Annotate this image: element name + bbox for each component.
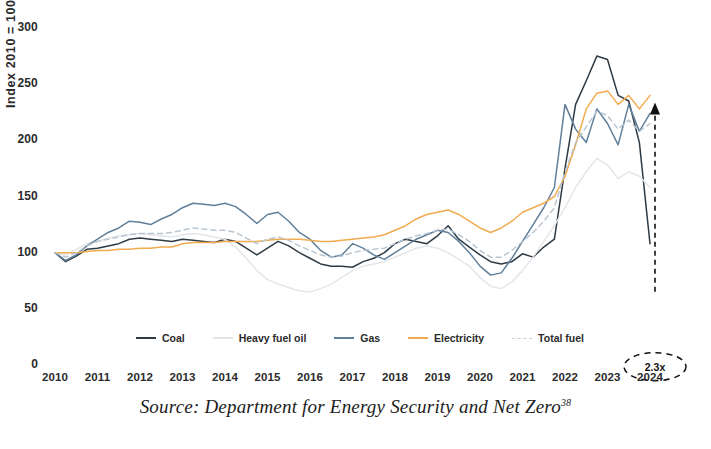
y-tick-300: 300 [4, 20, 38, 34]
legend-label: Gas [360, 332, 380, 344]
legend-item-gas[interactable]: Gas [334, 332, 380, 344]
legend-item-coal[interactable]: Coal [136, 332, 185, 344]
x-tick-2011: 2011 [76, 371, 120, 383]
source-caption: Source: Department for Energy Security a… [0, 396, 711, 418]
series-line-coal [55, 56, 650, 267]
y-tick-50: 50 [4, 301, 38, 315]
legend-item-electricity[interactable]: Electricity [408, 332, 484, 344]
series-line-electricity [55, 91, 650, 253]
x-tick-2012: 2012 [118, 371, 162, 383]
x-tick-2018: 2018 [373, 371, 417, 383]
x-tick-2014: 2014 [203, 371, 247, 383]
legend-label: Total fuel [538, 332, 584, 344]
legend-swatch-coal-icon [136, 337, 156, 339]
annotation-layer: 2.3x [624, 102, 686, 380]
x-tick-2024: 2024 [628, 371, 672, 383]
series-layer [55, 56, 650, 292]
y-tick-250: 250 [4, 76, 38, 90]
x-tick-2010: 2010 [33, 371, 77, 383]
y-axis-title: Index 2010 = 100 [4, 0, 18, 108]
legend-swatch-gas-icon [334, 337, 354, 339]
y-tick-150: 150 [4, 189, 38, 203]
x-tick-2016: 2016 [288, 371, 332, 383]
x-tick-2019: 2019 [416, 371, 460, 383]
x-tick-2015: 2015 [246, 371, 290, 383]
series-line-gas [55, 104, 650, 275]
legend-label: Heavy fuel oil [239, 332, 307, 344]
x-tick-2013: 2013 [161, 371, 205, 383]
chart-legend: CoalHeavy fuel oilGasElectricityTotal fu… [136, 329, 584, 347]
legend-swatch-heavy-fuel-oil-icon [213, 337, 233, 339]
legend-swatch-electricity-icon [408, 337, 428, 339]
y-tick-100: 100 [4, 245, 38, 259]
x-tick-2023: 2023 [586, 371, 630, 383]
y-tick-0: 0 [4, 357, 38, 371]
x-tick-2020: 2020 [458, 371, 502, 383]
legend-label: Coal [162, 332, 185, 344]
annotation-arrowhead-icon [650, 102, 660, 114]
source-text: Source: Department for Energy Security a… [140, 396, 561, 417]
legend-item-total-fuel[interactable]: Total fuel [512, 332, 584, 344]
legend-item-heavy-fuel-oil[interactable]: Heavy fuel oil [213, 332, 307, 344]
y-tick-200: 200 [4, 132, 38, 146]
x-tick-2021: 2021 [501, 371, 545, 383]
x-tick-2022: 2022 [543, 371, 587, 383]
legend-label: Electricity [434, 332, 484, 344]
source-footnote-marker: 38 [561, 397, 571, 408]
legend-swatch-total-fuel-icon [512, 338, 532, 339]
x-tick-2017: 2017 [331, 371, 375, 383]
series-line-heavy-fuel-oil [55, 158, 650, 292]
figure: 2.3x Index 2010 = 100 050100150200250300… [0, 0, 711, 449]
